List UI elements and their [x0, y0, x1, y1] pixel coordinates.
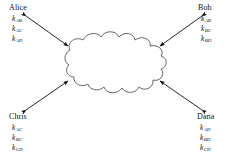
key-item: kAC	[12, 124, 27, 132]
connector-dana	[160, 81, 202, 110]
party-dana-name: Dana	[197, 113, 214, 121]
party-alice-name: Alice	[9, 4, 27, 12]
party-chris-key-list: kAC kBC kCD	[9, 124, 27, 152]
key-item: kBC	[12, 134, 27, 142]
party-chris: Chris kAC kBC kCD	[9, 113, 27, 152]
key-distribution-diagram: Alice kAB kAC kAD Bob kAB kBC kBD Chris …	[0, 0, 229, 158]
key-item: kCD	[12, 144, 27, 152]
connector-alice	[26, 16, 68, 46]
key-item: kAB	[12, 15, 27, 23]
party-dana: Dana kAD kBD kCD	[197, 113, 214, 152]
key-item: kCD	[200, 144, 214, 152]
party-bob-name: Bob	[198, 4, 212, 12]
party-bob: Bob kAB kBC kBD	[198, 4, 212, 43]
key-item: kAB	[201, 15, 212, 23]
network-cloud-shape	[65, 32, 166, 93]
key-item: kBD	[200, 134, 214, 142]
party-dana-key-list: kAD kBD kCD	[197, 124, 214, 152]
connector-chris	[26, 81, 68, 110]
diagram-canvas	[0, 0, 229, 158]
key-item: kAD	[12, 35, 27, 43]
party-alice: Alice kAB kAC kAD	[9, 4, 27, 43]
party-chris-name: Chris	[9, 113, 27, 121]
party-bob-key-list: kAB kBC kBD	[198, 15, 212, 43]
key-item: kAC	[12, 25, 27, 33]
party-alice-key-list: kAB kAC kAD	[9, 15, 27, 43]
key-item: kBC	[201, 25, 212, 33]
key-item: kAD	[200, 124, 214, 132]
key-item: kBD	[201, 35, 212, 43]
connector-bob	[160, 16, 202, 46]
